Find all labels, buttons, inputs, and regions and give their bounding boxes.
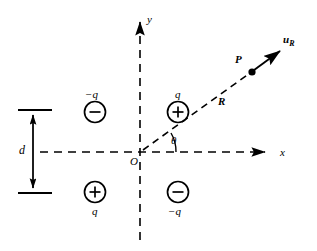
quadrupole-figure: y x O −q q q −q d θ R P uR [0, 0, 317, 251]
charge-label-q3: q [92, 206, 98, 217]
charge-label-q2: −q [85, 89, 98, 100]
charge-circle-q4 [168, 182, 189, 203]
point-label-p: P [235, 54, 242, 65]
charge-label-q1: q [175, 89, 181, 100]
dimension-label-d: d [19, 144, 25, 156]
y-axis-label: y [147, 14, 152, 25]
figure-canvas [0, 0, 317, 251]
charge-circle-q1 [168, 102, 189, 123]
origin-label: O [130, 156, 138, 167]
unit-vector-subscript: R [289, 39, 294, 48]
point-p-marker [248, 68, 255, 75]
x-axis-label: x [280, 147, 285, 158]
charge-circle-q3 [85, 182, 106, 203]
theta-label: θ [171, 135, 176, 146]
unit-vector-label: uR [283, 34, 294, 48]
charge-label-q4: −q [168, 206, 181, 217]
charge-circle-q2 [85, 102, 106, 123]
radial-ray-dashed [143, 73, 250, 150]
distance-label-r: R [218, 96, 225, 107]
